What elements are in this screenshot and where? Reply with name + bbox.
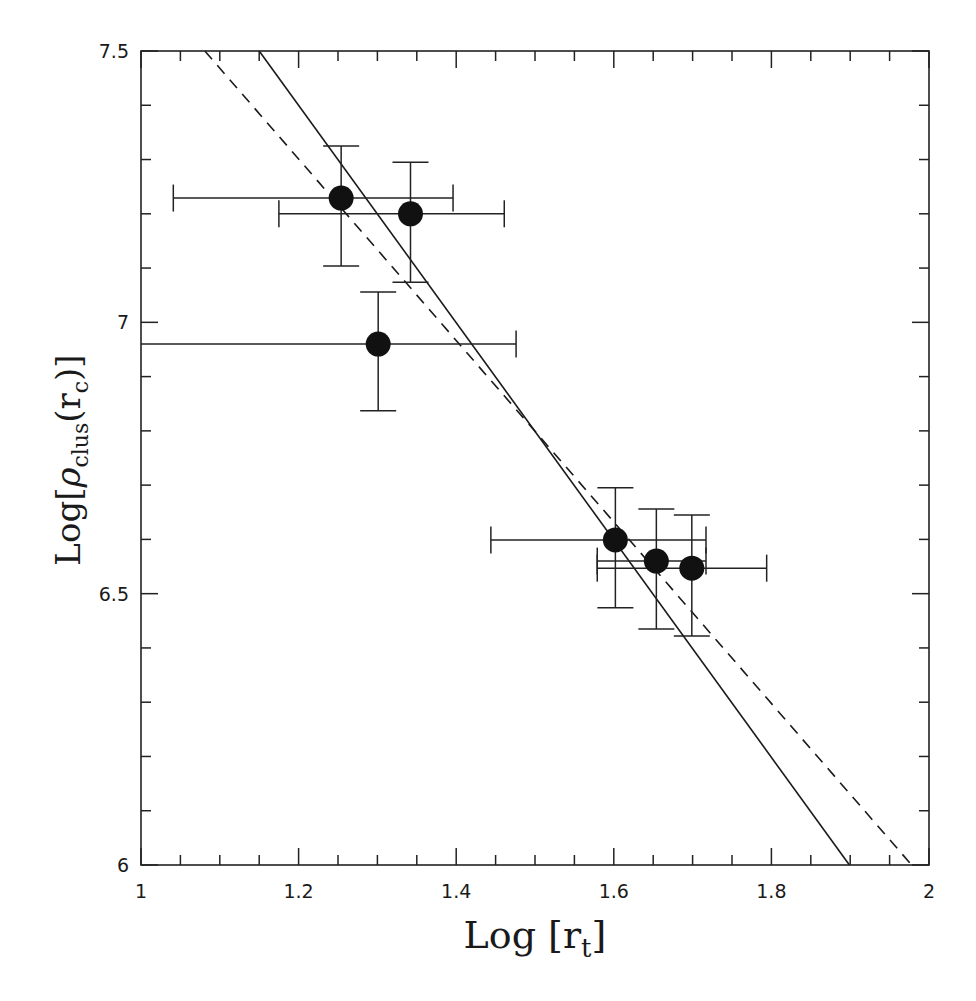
data-point bbox=[329, 186, 354, 211]
x-tick-label: 1.6 bbox=[599, 880, 629, 902]
x-tick-label: 2 bbox=[923, 880, 935, 902]
axis-ticks bbox=[141, 51, 929, 865]
fit-solid-line bbox=[259, 51, 849, 865]
y-tick-label: 6.5 bbox=[99, 583, 129, 605]
data-point bbox=[398, 201, 423, 226]
data-point bbox=[603, 527, 628, 552]
plot-frame bbox=[141, 51, 929, 865]
data-point bbox=[366, 332, 391, 357]
y-tick-labels: 66.577.5 bbox=[99, 40, 129, 876]
x-tick-label: 1.4 bbox=[441, 880, 471, 902]
x-tick-label: 1.8 bbox=[756, 880, 786, 902]
data-point bbox=[644, 549, 669, 574]
x-tick-label: 1 bbox=[135, 880, 147, 902]
y-axis-title: Log[ρclus(rc)] bbox=[48, 354, 93, 565]
fit-lines bbox=[205, 51, 912, 865]
y-tick-label: 6 bbox=[117, 854, 129, 876]
fit-dashed-line bbox=[205, 51, 912, 865]
y-tick-label: 7 bbox=[117, 311, 129, 333]
x-tick-labels: 11.21.41.61.82 bbox=[135, 880, 935, 902]
data-points bbox=[329, 186, 705, 581]
scatter-chart: 11.21.41.61.82 66.577.5 Log [rt] Log[ρcl… bbox=[0, 0, 976, 1001]
data-point bbox=[679, 556, 704, 581]
error-bars bbox=[141, 146, 767, 636]
x-tick-label: 1.2 bbox=[283, 880, 313, 902]
y-tick-label: 7.5 bbox=[99, 40, 129, 62]
x-axis-title: Log [rt] bbox=[464, 913, 607, 963]
